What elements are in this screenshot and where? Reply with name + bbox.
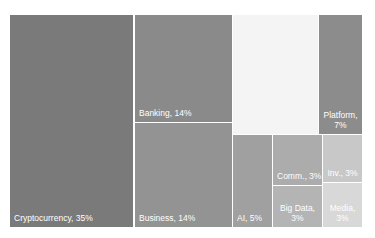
- tile-label: Business, 14%: [139, 213, 195, 223]
- tile-cryptocurrency: Cryptocurrency, 35%: [10, 15, 133, 227]
- tile-label: Inv., 3%: [323, 168, 362, 178]
- tile-label: Banking, 14%: [139, 108, 191, 118]
- tile-label: Comm., 3%: [277, 171, 321, 181]
- tile-platform: Platform, 7%: [319, 15, 362, 134]
- tile-media: Media, 3%: [323, 183, 362, 227]
- tile-business: Business, 14%: [135, 123, 232, 227]
- tile-label: AI, 5%: [237, 213, 262, 223]
- tile-big-data: Big Data, 3%: [273, 186, 322, 227]
- tile-label: Platform, 7%: [319, 110, 362, 130]
- tile-banking: Banking, 14%: [135, 15, 232, 122]
- tile-ai: AI, 5%: [233, 135, 272, 227]
- treemap-chart: Cryptocurrency, 35% Banking, 14% Busines…: [0, 0, 375, 238]
- tile-comm: Comm., 3%: [273, 135, 322, 185]
- tile-label: Media, 3%: [323, 203, 362, 223]
- tile-unlabeled: [233, 15, 318, 134]
- tile-label: Big Data, 3%: [273, 203, 322, 223]
- tile-inv: Inv., 3%: [323, 135, 362, 182]
- tile-label: Cryptocurrency, 35%: [14, 213, 93, 223]
